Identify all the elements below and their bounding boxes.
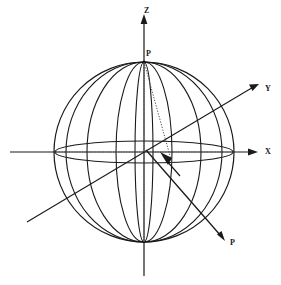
- y-axis: [27, 84, 259, 222]
- y-axis-label: Y: [265, 85, 271, 93]
- x-axis-arrowhead: [248, 149, 258, 156]
- sphere-diagram: [0, 0, 281, 285]
- z-axis-label: Z: [144, 7, 149, 15]
- p-axis-label: P: [230, 239, 235, 247]
- north-pole-marker: [142, 60, 145, 63]
- figure-canvas: Z X Y P P: [0, 0, 281, 285]
- x-axis-label: X: [265, 148, 271, 156]
- p-vector: [146, 150, 225, 241]
- z-axis-arrowhead: [141, 14, 148, 24]
- y-axis-arrowhead: [249, 84, 259, 91]
- north-pole-label: P: [146, 50, 151, 58]
- y-axis-line: [27, 86, 255, 222]
- p-vector-line: [146, 150, 221, 236]
- pole-to-point-dotted-line: [144, 62, 172, 163]
